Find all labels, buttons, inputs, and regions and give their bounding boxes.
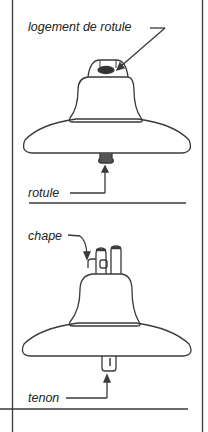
diagram-canvas	[0, 0, 208, 432]
label-tenon: tenon	[28, 392, 59, 405]
insulator-top	[24, 28, 191, 193]
label-chape: chape	[28, 230, 62, 243]
insulator-bottom	[22, 235, 191, 398]
label-logement-de-rotule: logement de rotule	[28, 21, 132, 34]
label-rotule: rotule	[28, 187, 59, 200]
